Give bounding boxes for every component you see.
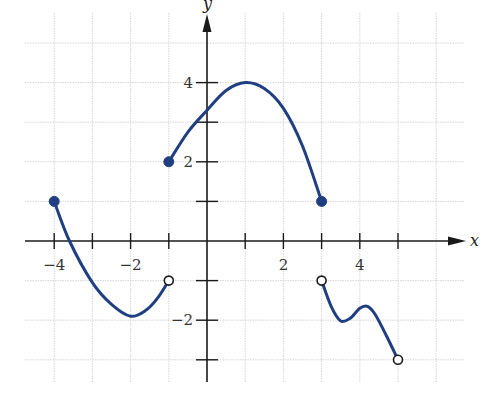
x-tick-label: −4 bbox=[43, 256, 65, 274]
closed-endpoint bbox=[317, 196, 327, 206]
x-tick-label: −2 bbox=[120, 256, 142, 274]
y-tick-label: 2 bbox=[183, 153, 193, 171]
closed-endpoint bbox=[49, 196, 59, 206]
open-endpoint bbox=[164, 276, 173, 285]
open-endpoint bbox=[317, 276, 326, 285]
open-endpoint bbox=[394, 355, 403, 364]
x-tick-label: 4 bbox=[355, 256, 365, 274]
curve-segment-1 bbox=[54, 201, 169, 316]
closed-endpoint bbox=[164, 157, 174, 167]
ticks bbox=[54, 83, 398, 360]
endpoints bbox=[49, 157, 402, 364]
y-axis-arrow-icon bbox=[203, 14, 212, 32]
grid bbox=[25, 13, 464, 382]
x-axis-arrow-icon bbox=[448, 237, 466, 246]
y-tick-label: 4 bbox=[183, 74, 193, 92]
curves bbox=[54, 83, 398, 360]
x-axis-label: x bbox=[470, 231, 479, 250]
y-tick-label: −2 bbox=[171, 311, 193, 329]
function-graph: x y −4−22442−2 bbox=[0, 0, 482, 400]
x-tick-label: 2 bbox=[279, 256, 289, 274]
axes: x y bbox=[25, 0, 479, 382]
y-axis-label: y bbox=[202, 0, 213, 13]
